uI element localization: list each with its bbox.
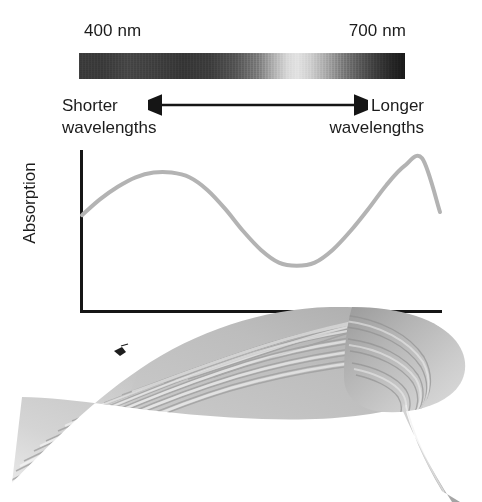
wavelength-min-label: 400 nm (84, 22, 141, 39)
leaf-petiole (402, 403, 460, 502)
absorption-spectrum-figure: 400 nm 700 nm Shorter wavelengths Longer… (0, 0, 482, 502)
leaf-curled-base (344, 307, 465, 418)
wavelength-max-label: 700 nm (349, 22, 406, 39)
leaf-speck (114, 344, 128, 356)
y-axis-label: Absorption (20, 133, 40, 273)
longer-wavelengths-line2: wavelengths (329, 117, 424, 139)
shorter-wavelengths-label: Shorter wavelengths (62, 95, 157, 140)
hosta-leaf-photo (0, 305, 482, 502)
spectrum-grain-overlay (79, 53, 405, 79)
shorter-wavelengths-line2: wavelengths (62, 117, 157, 139)
longer-wavelengths-label: Longer wavelengths (329, 95, 424, 140)
visible-spectrum-bar (79, 53, 405, 79)
longer-wavelengths-line1: Longer (329, 95, 424, 117)
y-axis-line (80, 150, 83, 313)
shorter-wavelengths-line1: Shorter (62, 95, 157, 117)
